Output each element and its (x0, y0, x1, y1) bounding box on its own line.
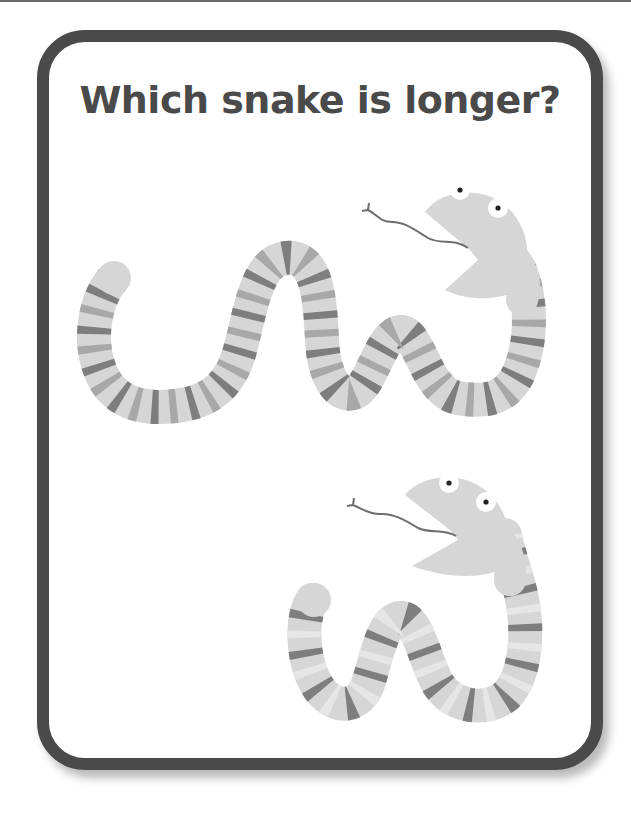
snake-bottom-pupil-right (483, 499, 488, 504)
snake-top-pupil-left (457, 187, 462, 192)
snake-bottom[interactable] (297, 473, 525, 706)
snake-bottom-pupil-left (446, 480, 451, 485)
snake-top-neck (505, 250, 524, 300)
snake-top-pupil-right (495, 205, 500, 210)
snake-bottom-tail (297, 583, 331, 617)
snake-illustrations (0, 0, 631, 817)
snake-bottom-neck (490, 530, 510, 580)
snake-top-tail (97, 261, 131, 295)
snake-top[interactable] (94, 180, 529, 407)
